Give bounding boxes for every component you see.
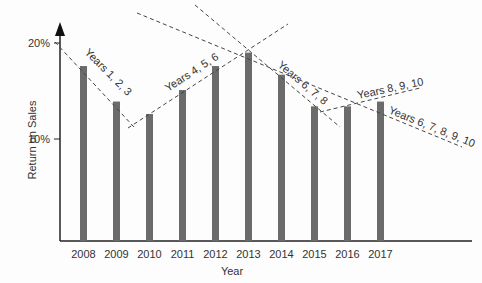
x-axis-label: Year — [221, 265, 244, 277]
x-tick-labels: 2008200920102011201220132014201520162017 — [71, 248, 392, 260]
chart: 20% 10% Return on Sales 2008200920102011… — [0, 0, 482, 283]
x-tick-2015: 2015 — [302, 248, 326, 260]
x-tick-2009: 2009 — [104, 248, 128, 260]
bar-2010 — [146, 114, 153, 241]
x-tick-2013: 2013 — [236, 248, 260, 260]
bar-2013 — [245, 53, 252, 241]
bar-2017 — [377, 102, 384, 241]
bar-2016 — [344, 106, 351, 241]
bar-2012 — [212, 66, 219, 241]
bar-2015 — [311, 106, 318, 241]
x-tick-2016: 2016 — [335, 248, 359, 260]
x-tick-2017: 2017 — [368, 248, 392, 260]
bar-2008 — [80, 66, 87, 241]
x-tick-2010: 2010 — [137, 248, 161, 260]
annotation-years-4-5-6: Years 4, 5, 6 — [163, 50, 221, 93]
x-tick-2011: 2011 — [171, 248, 195, 260]
y-axis-arrow-icon — [55, 22, 65, 36]
bar-2011 — [179, 90, 186, 241]
bar-2009 — [113, 102, 120, 241]
trend-line-years-4-6 — [128, 24, 288, 128]
x-tick-2014: 2014 — [269, 248, 293, 260]
annotation-years-6-7-8-9-10: Years 6, 7, 8, 9, 10 — [387, 104, 477, 150]
y-tick-20: 20% — [28, 37, 50, 49]
annotation-years-8-9-10: Years 8, 9, 10 — [356, 75, 425, 101]
annotation-years-1-2-3: Years 1, 2, 3 — [83, 46, 135, 98]
bar-2014 — [278, 75, 285, 241]
y-axis-label: Return on Sales — [26, 100, 38, 179]
x-tick-2008: 2008 — [71, 248, 95, 260]
x-tick-2012: 2012 — [203, 248, 227, 260]
